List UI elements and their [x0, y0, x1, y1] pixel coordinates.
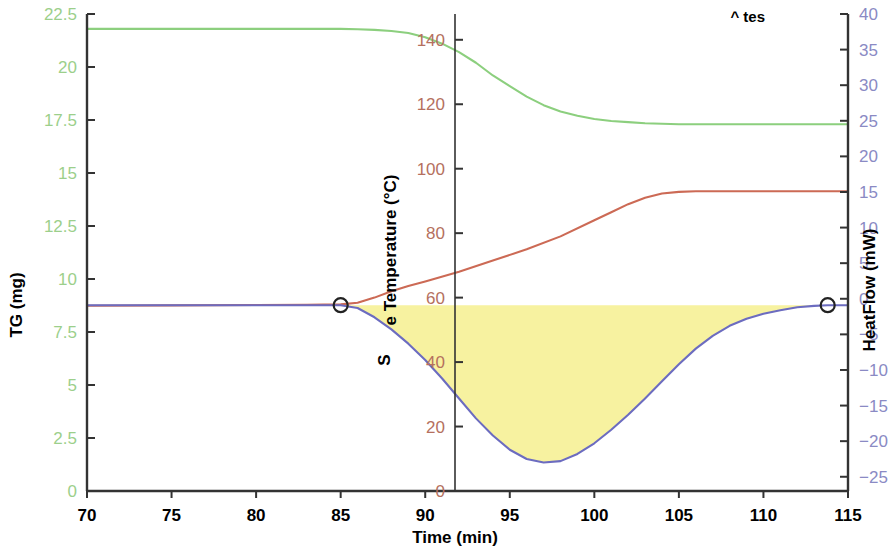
thermal-analysis-chart: 70758085909510010511011502.557.51012.515…	[0, 0, 890, 550]
heatflow-tick-label: 35	[859, 41, 878, 60]
tg-tick-label: 2.5	[53, 429, 77, 448]
heatflow-tick-label: −15	[859, 397, 888, 416]
heatflow-tick-label: 15	[859, 183, 878, 202]
temperature-tick-label: 0	[436, 482, 445, 501]
axis-title-tg: TG (mg)	[7, 272, 26, 337]
chart-canvas: 70758085909510010511011502.557.51012.515…	[0, 0, 890, 550]
clipped-annotation-text: ^ tes	[730, 8, 765, 25]
tg-tick-label: 20	[58, 58, 77, 77]
temperature-tick-label: 120	[417, 95, 445, 114]
tg-tick-label: 17.5	[44, 111, 77, 130]
tg-tick-label: 12.5	[44, 217, 77, 236]
tg-tick-label: 22.5	[44, 5, 77, 24]
temperature-tick-label: 20	[426, 418, 445, 437]
temperature-tick-label: 140	[417, 31, 445, 50]
temperature-tick-label: 60	[426, 289, 445, 308]
heatflow-tick-label: 25	[859, 112, 878, 131]
x-tick-label: 90	[416, 506, 435, 525]
temperature-tick-label: 80	[426, 224, 445, 243]
tg-tick-label: 10	[58, 270, 77, 289]
x-tick-label: 115	[834, 506, 861, 525]
x-tick-label: 105	[665, 506, 693, 525]
temperature-tick-label: 100	[417, 160, 445, 179]
axis-title-heatflow: HeatFlow (mW)	[860, 229, 879, 352]
heatflow-tick-label: 40	[859, 5, 878, 24]
tg-tick-label: 5	[68, 376, 77, 395]
x-tick-label: 80	[247, 506, 266, 525]
heatflow-tick-label: −20	[859, 432, 888, 451]
tg-tick-label: 0	[68, 482, 77, 501]
tg-tick-label: 15	[58, 164, 77, 183]
heatflow-tick-label: 30	[859, 76, 878, 95]
x-tick-label: 100	[580, 506, 608, 525]
heatflow-tick-label: −25	[859, 468, 888, 487]
axis-title-temperature: e Temperature (°C)	[381, 174, 400, 325]
x-tick-label: 85	[331, 506, 350, 525]
peak-fill-shape	[341, 305, 828, 462]
axis-title-temperature-fragment: S	[375, 354, 394, 365]
axes: 70758085909510010511011502.557.51012.515…	[44, 5, 888, 525]
x-tick-label: 95	[500, 506, 519, 525]
heatflow-tick-label: −10	[859, 361, 888, 380]
x-tick-label: 110	[750, 506, 777, 525]
curve-tg	[87, 29, 848, 124]
temperature-tick-label: 40	[426, 353, 445, 372]
x-tick-label: 70	[78, 506, 97, 525]
heatflow-tick-label: 20	[859, 147, 878, 166]
integrated-peak-area	[341, 305, 828, 462]
tg-tick-label: 7.5	[53, 323, 77, 342]
axis-title-time: Time (min)	[412, 528, 498, 547]
x-tick-label: 75	[162, 506, 181, 525]
curve-temperature	[87, 191, 848, 305]
